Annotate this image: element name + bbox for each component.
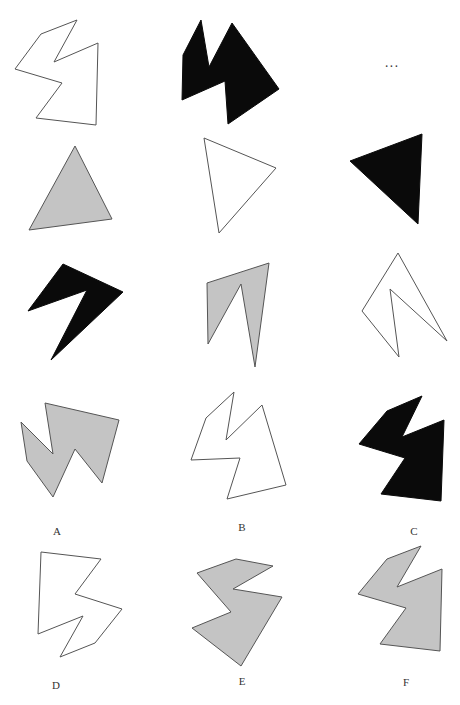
- answer-options: [21, 392, 444, 666]
- missing-cell-ellipsis: ...: [385, 56, 399, 70]
- question-grid: [15, 20, 447, 367]
- option-shape-e[interactable]: [192, 559, 282, 666]
- grid-shape-r1c1: [15, 20, 98, 125]
- grid-shape-r2c1: [29, 146, 112, 230]
- option-label-a[interactable]: A: [53, 525, 61, 537]
- option-label-c[interactable]: C: [410, 525, 417, 537]
- grid-shape-r3c1: [28, 264, 123, 360]
- option-label-b[interactable]: B: [238, 521, 245, 533]
- option-label-f[interactable]: F: [403, 676, 409, 688]
- grid-shape-r3c2: [207, 263, 269, 367]
- option-label-d[interactable]: D: [52, 679, 60, 691]
- option-shape-d[interactable]: [38, 552, 122, 657]
- grid-shape-r2c2: [204, 138, 276, 233]
- option-shape-a[interactable]: [21, 403, 119, 497]
- grid-shape-r1c2: [182, 20, 279, 124]
- grid-shape-r2c3: [350, 134, 422, 224]
- option-shape-b[interactable]: [191, 392, 286, 499]
- grid-shape-r3c3: [362, 253, 447, 357]
- puzzle-canvas: [0, 0, 460, 705]
- option-shape-f[interactable]: [358, 546, 442, 651]
- option-label-e[interactable]: E: [239, 675, 246, 687]
- option-shape-c[interactable]: [359, 396, 444, 501]
